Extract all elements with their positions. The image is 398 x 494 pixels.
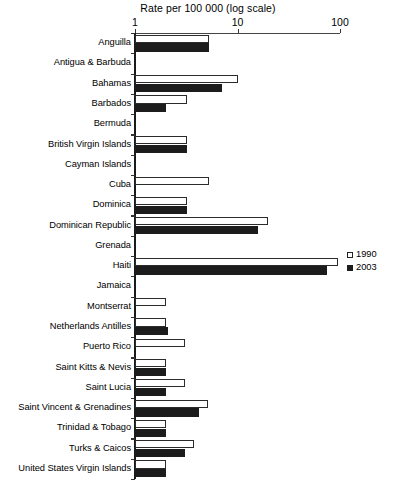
bar-row — [135, 438, 340, 458]
x-tick-mark — [135, 29, 136, 33]
category-label-dominican-republic: Dominican Republic — [0, 220, 131, 231]
legend-swatch-2003 — [347, 265, 353, 271]
bar-2003-netherlands-antilles — [135, 327, 168, 335]
bar-2003-british-virgin-islands — [135, 145, 187, 153]
bar-1990-saint-vincent-grenadines — [135, 400, 208, 408]
bar-row — [135, 418, 340, 438]
bar-row — [135, 134, 340, 154]
bar-row — [135, 195, 340, 215]
bar-row — [135, 74, 340, 94]
x-tick-label-10: 10 — [232, 16, 244, 28]
bar-1990-montserrat — [135, 298, 166, 306]
x-tick-mark — [238, 29, 239, 33]
x-axis-tick-labels: 110100 — [0, 16, 398, 30]
bar-1990-dominican-republic — [135, 217, 268, 225]
bar-1990-saint-kitts-nevis — [135, 359, 166, 367]
bar-row — [135, 236, 340, 256]
tuberculosis-rate-bar-chart: Rate per 100 000 (log scale) 110100 Angu… — [0, 0, 398, 494]
bar-1990-puerto-rico — [135, 339, 185, 347]
bar-2003-dominican-republic — [135, 226, 258, 234]
bar-row — [135, 398, 340, 418]
chart-legend: 19902003 — [347, 248, 377, 274]
bar-1990-united-states-virgin-islands — [135, 460, 166, 468]
bar-2003-saint-lucia — [135, 388, 166, 396]
bar-row — [135, 297, 340, 317]
category-label-british-virgin-islands: British Virgin Islands — [0, 139, 131, 150]
x-tick-mark — [340, 29, 341, 33]
bar-row — [135, 256, 340, 276]
bar-row — [135, 378, 340, 398]
bar-rows — [135, 33, 340, 479]
category-label-dominica: Dominica — [0, 199, 131, 210]
plot-area — [135, 33, 340, 479]
category-label-turks-caicos: Turks & Caicos — [0, 443, 131, 454]
category-label-haiti: Haiti — [0, 260, 131, 271]
bar-row — [135, 357, 340, 377]
bar-2003-united-states-virgin-islands — [135, 469, 166, 477]
bar-row — [135, 215, 340, 235]
y-tick-mark — [131, 155, 135, 156]
bar-2003-saint-vincent-grenadines — [135, 408, 199, 416]
bar-2003-anguilla — [135, 43, 209, 51]
bar-row — [135, 317, 340, 337]
category-label-saint-vincent-grenadines: Saint Vincent & Grenadines — [0, 402, 131, 413]
y-tick-mark — [131, 276, 135, 277]
category-label-barbados: Barbados — [0, 98, 131, 109]
category-label-grenada: Grenada — [0, 240, 131, 251]
bar-2003-barbados — [135, 104, 166, 112]
category-label-antigua-barbuda: Antigua & Barbuda — [0, 57, 131, 68]
legend-label: 1990 — [356, 248, 377, 261]
bar-2003-bahamas — [135, 84, 222, 92]
category-label-cuba: Cuba — [0, 179, 131, 190]
bar-2003-trinidad-tobago — [135, 429, 166, 437]
bar-1990-trinidad-tobago — [135, 420, 166, 428]
bar-1990-netherlands-antilles — [135, 318, 166, 326]
bar-1990-dominica — [135, 197, 187, 205]
x-tick-label-100: 100 — [331, 16, 349, 28]
category-label-cayman-islands: Cayman Islands — [0, 159, 131, 170]
bar-row — [135, 155, 340, 175]
bar-1990-cuba — [135, 177, 209, 185]
bar-1990-barbados — [135, 95, 187, 103]
chart-axis-title: Rate per 100 000 (log scale) — [58, 2, 358, 14]
category-label-united-states-virgin-islands: United States Virgin Islands — [0, 463, 131, 474]
bar-1990-saint-lucia — [135, 379, 185, 387]
bar-1990-british-virgin-islands — [135, 136, 187, 144]
category-label-saint-kitts-nevis: Saint Kitts & Nevis — [0, 362, 131, 373]
bar-row — [135, 94, 340, 114]
bar-1990-bahamas — [135, 75, 238, 83]
bar-row — [135, 114, 340, 134]
category-label-anguilla: Anguilla — [0, 37, 131, 48]
bar-row — [135, 459, 340, 479]
bar-row — [135, 53, 340, 73]
legend-item-2003[interactable]: 2003 — [347, 261, 377, 274]
bar-2003-saint-kitts-nevis — [135, 368, 166, 376]
category-label-saint-lucia: Saint Lucia — [0, 382, 131, 393]
category-label-bahamas: Bahamas — [0, 78, 131, 89]
y-axis-end-tick — [131, 479, 135, 480]
legend-item-1990[interactable]: 1990 — [347, 248, 377, 261]
bar-1990-turks-caicos — [135, 440, 194, 448]
category-label-bermuda: Bermuda — [0, 118, 131, 129]
bar-row — [135, 33, 340, 53]
category-label-puerto-rico: Puerto Rico — [0, 341, 131, 352]
category-label-jamaica: Jamaica — [0, 280, 131, 291]
legend-label: 2003 — [356, 261, 377, 274]
category-label-column: AnguillaAntigua & BarbudaBahamasBarbados… — [0, 33, 131, 479]
y-tick-mark — [131, 236, 135, 237]
category-label-netherlands-antilles: Netherlands Antilles — [0, 321, 131, 332]
category-label-montserrat: Montserrat — [0, 301, 131, 312]
bar-row — [135, 337, 340, 357]
category-label-trinidad-tobago: Trinidad & Tobago — [0, 422, 131, 433]
bar-1990-haiti — [135, 258, 338, 266]
bar-row — [135, 276, 340, 296]
bar-row — [135, 175, 340, 195]
bar-2003-dominica — [135, 206, 187, 214]
bar-1990-anguilla — [135, 35, 209, 43]
x-tick-label-1: 1 — [132, 16, 138, 28]
bar-2003-turks-caicos — [135, 449, 185, 457]
legend-swatch-1990 — [347, 252, 353, 258]
y-tick-mark — [131, 114, 135, 115]
y-tick-mark — [131, 53, 135, 54]
bar-2003-haiti — [135, 266, 327, 274]
